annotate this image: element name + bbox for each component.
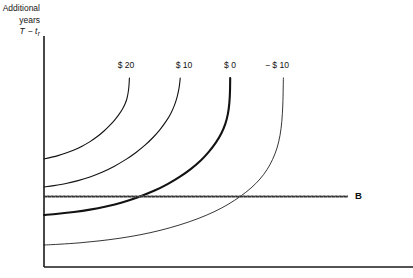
indifference-curves-group — [44, 78, 283, 245]
budget-line-group — [44, 196, 348, 198]
indifference-curve-2 — [44, 78, 230, 215]
axes-group — [44, 36, 413, 267]
indifference-curve-1 — [44, 78, 180, 187]
indifference-curve-0 — [44, 78, 129, 159]
plot-area — [0, 0, 413, 278]
budget-line-b — [44, 196, 348, 198]
figure-canvas: Additional years T − tr $ 20 $ 10 $ 0 − … — [0, 0, 413, 278]
indifference-curve-3 — [44, 78, 283, 245]
